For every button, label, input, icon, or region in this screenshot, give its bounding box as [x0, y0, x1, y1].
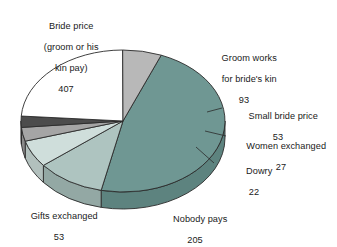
label-text-line2: (groom or his	[44, 42, 99, 52]
label-text-line1: Dowry	[246, 166, 272, 176]
label-text-line1: Small bride price	[249, 111, 318, 121]
label-value: 407	[10, 84, 122, 95]
label-text-line2: for bride's kin	[222, 74, 277, 84]
label-text-line1: Bride price	[49, 21, 93, 31]
label-text-line3: kin pay)	[55, 63, 88, 73]
label-value: 22	[224, 187, 284, 198]
label-text-line1: Nobody pays	[173, 214, 227, 224]
slice-label-bride-price: Bride price (groom or his kin pay) 407	[10, 10, 122, 116]
slice-label-nobody-pays: Nobody pays 205	[148, 203, 242, 247]
label-text-line1: Gifts exchanged	[31, 211, 98, 221]
label-value: 53	[4, 232, 114, 243]
label-text-line1: Women exchanged	[246, 141, 326, 151]
label-value: 205	[148, 235, 242, 246]
slice-label-gifts-exchanged: Gifts exchanged 53	[4, 200, 114, 247]
label-text-line1: Groom works	[222, 53, 277, 63]
